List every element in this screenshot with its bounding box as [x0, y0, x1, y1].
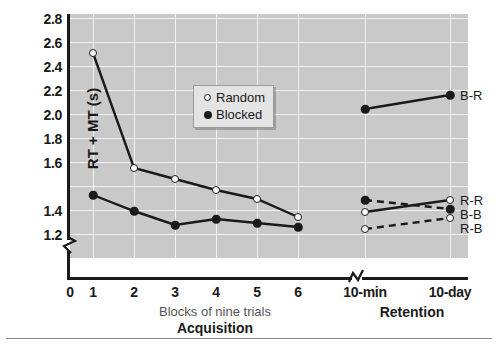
x-tick-label: 3	[171, 284, 179, 300]
x-tick-label: 6	[294, 284, 302, 300]
retention-label: Retention	[327, 304, 497, 320]
data-point-bb	[361, 196, 370, 205]
open-circle-icon	[200, 94, 215, 101]
x-tick-label: 5	[253, 284, 261, 300]
gridline-vertical	[365, 14, 366, 258]
x-axis-break-icon	[348, 268, 366, 284]
series-label-br: B-R	[460, 88, 482, 103]
gridline-horizontal	[70, 162, 468, 163]
x-tick-labels: 0 1 2 3 4 5 6 10-min 10-day	[0, 284, 498, 306]
series-label-rb: R-B	[460, 221, 482, 236]
gridline-vertical	[298, 14, 299, 258]
y-axis-line	[67, 14, 70, 240]
data-point-br	[361, 105, 370, 114]
y-tick-label: 2.0	[18, 107, 62, 123]
y-axis-line-lower	[67, 250, 70, 280]
gridline-horizontal	[70, 138, 468, 139]
data-point-random	[253, 195, 261, 203]
legend-item-label: Random	[215, 90, 265, 105]
line-blocked-acquisition	[93, 195, 298, 227]
data-point-random	[212, 186, 220, 194]
data-point-blocked	[171, 221, 180, 230]
gridline-horizontal	[70, 66, 468, 67]
plot-area: B-R R-R B-B R-B RT + MT (s)	[70, 14, 468, 258]
y-tick-label: 1.2	[18, 227, 62, 243]
x-tick-label: 10-day	[429, 284, 472, 300]
data-point-blocked	[253, 219, 262, 228]
y-tick-label: 1.6	[18, 155, 62, 171]
gridline-vertical	[134, 14, 135, 258]
x-tick-label: 10-min	[343, 284, 386, 300]
y-tick-label: 2.4	[18, 59, 62, 75]
data-point-rr	[361, 208, 369, 216]
data-point-blocked	[89, 191, 98, 200]
line-rb-retention	[365, 218, 450, 229]
gridline-horizontal	[70, 42, 468, 43]
x-tick-label: 2	[130, 284, 138, 300]
figure-bottom-rule	[6, 338, 492, 339]
x-axis-line	[67, 277, 352, 280]
data-point-random	[171, 175, 179, 183]
x-axis-line-right	[362, 277, 468, 280]
data-point-blocked	[294, 223, 303, 232]
data-point-random	[130, 164, 138, 172]
series-label-bb: B-B	[460, 207, 482, 222]
acquisition-sub-label: Blocks of nine trials	[135, 304, 295, 319]
chart-figure: B-R R-R B-B R-B RT + MT (s) 2.8 2.6 2.4 …	[0, 0, 498, 346]
data-point-br	[446, 91, 455, 100]
data-point-bb	[446, 205, 455, 214]
data-point-random	[294, 213, 302, 221]
acquisition-label: Acquisition	[135, 320, 295, 336]
legend-item-label: Blocked	[215, 107, 262, 122]
data-point-rb	[361, 225, 369, 233]
data-point-rb	[446, 214, 454, 222]
y-tick-label: 2.8	[18, 11, 62, 27]
data-point-random	[89, 49, 97, 57]
legend-item-random: Random	[200, 89, 265, 106]
series-label-rr: R-R	[460, 193, 483, 208]
line-random-acquisition	[93, 53, 298, 217]
y-tick-label: 2.6	[18, 35, 62, 51]
x-tick-label: 1	[89, 284, 97, 300]
gridline-horizontal	[70, 186, 468, 187]
gridline-horizontal	[70, 18, 468, 19]
y-axis-title: RT + MT (s)	[84, 49, 101, 209]
legend: Random Blocked	[193, 85, 274, 128]
series-lines-svg	[70, 14, 468, 258]
y-tick-label: 1.8	[18, 131, 62, 147]
gridline-horizontal	[70, 234, 468, 235]
y-tick-label: 1.4	[18, 203, 62, 219]
y-tick-label: 2.2	[18, 83, 62, 99]
data-point-blocked	[212, 215, 221, 224]
data-point-rr	[446, 196, 454, 204]
x-tick-label: 0	[66, 284, 74, 300]
x-tick-label: 4	[212, 284, 220, 300]
filled-circle-icon	[200, 111, 215, 119]
line-br-retention	[365, 95, 450, 109]
legend-item-blocked: Blocked	[200, 106, 265, 123]
data-point-blocked	[130, 207, 139, 216]
line-bb-retention	[365, 200, 450, 209]
